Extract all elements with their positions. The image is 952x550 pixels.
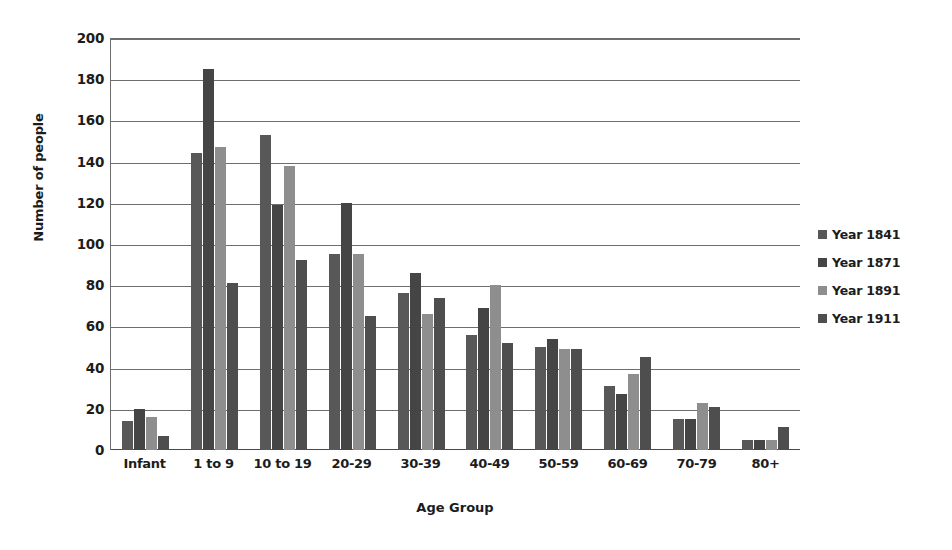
plot-area [110,38,800,450]
bar[interactable] [673,419,684,450]
y-axis-tick-labels: 020406080100120140160180200 [58,38,104,450]
x-tick-label: 30-39 [386,456,455,471]
y-tick-label: 40 [58,360,104,376]
x-axis-tick-labels: Infant1 to 910 to 1920-2930-3940-4950-59… [110,456,800,471]
x-tick-label: 40-49 [455,456,524,471]
y-tick-label: 200 [58,30,104,46]
bar[interactable] [709,407,720,450]
bar[interactable] [616,394,627,450]
legend-item[interactable]: Year 1841 [818,222,948,246]
legend-item[interactable]: Year 1891 [818,278,948,302]
bar[interactable] [778,427,789,450]
legend-label: Year 1841 [832,227,900,242]
bar-group [318,39,387,450]
bar[interactable] [604,386,615,450]
y-tick-label: 0 [58,442,104,458]
y-axis-title: Number of people [31,88,46,268]
bar-group [180,39,249,450]
bar[interactable] [502,343,513,450]
bar-group [111,39,180,450]
bar[interactable] [284,166,295,450]
bar[interactable] [398,293,409,450]
bar[interactable] [353,254,364,450]
x-axis-title: Age Group [110,500,800,515]
bar[interactable] [742,440,753,450]
x-tick-label: 1 to 9 [179,456,248,471]
x-tick-label: 60-69 [593,456,662,471]
bar[interactable] [466,335,477,450]
legend-label: Year 1891 [832,283,900,298]
bar[interactable] [215,147,226,450]
y-tick-label: 100 [58,236,104,252]
legend-label: Year 1871 [832,255,900,270]
bar[interactable] [296,260,307,450]
bar-group [662,39,731,450]
legend-swatch-icon [818,314,827,323]
bar-group [456,39,525,450]
bar[interactable] [422,314,433,450]
legend: Year 1841Year 1871Year 1891Year 1911 [818,222,948,334]
bar[interactable] [227,283,238,450]
bar[interactable] [490,285,501,450]
y-tick-label: 140 [58,154,104,170]
bar[interactable] [766,440,777,450]
bar-group [387,39,456,450]
bar[interactable] [697,403,708,450]
legend-label: Year 1911 [832,311,900,326]
x-tick-label: Infant [110,456,179,471]
bar-chart: Number of people 02040608010012014016018… [0,0,952,550]
x-tick-label: 70-79 [662,456,731,471]
bar[interactable] [640,357,651,450]
legend-swatch-icon [818,230,827,239]
bar[interactable] [434,298,445,450]
bar[interactable] [122,421,133,450]
x-tick-label: 20-29 [317,456,386,471]
bar-group [249,39,318,450]
bar[interactable] [754,440,765,450]
bar[interactable] [685,419,696,450]
legend-swatch-icon [818,286,827,295]
bar[interactable] [260,135,271,450]
bar-groups [111,39,800,450]
x-tick-label: 10 to 19 [248,456,317,471]
bar-group [593,39,662,450]
bar[interactable] [571,349,582,450]
x-tick-label: 80+ [731,456,800,471]
legend-item[interactable]: Year 1911 [818,306,948,330]
bar[interactable] [146,417,157,450]
bar[interactable] [559,349,570,450]
legend-swatch-icon [818,258,827,267]
bar[interactable] [203,69,214,450]
y-tick-label: 160 [58,112,104,128]
y-tick-label: 180 [58,71,104,87]
y-tick-label: 20 [58,401,104,417]
bar[interactable] [191,153,202,450]
bar[interactable] [410,273,421,450]
bar[interactable] [134,409,145,450]
bar[interactable] [628,374,639,450]
bar[interactable] [535,347,546,450]
bar-group [731,39,800,450]
bar[interactable] [478,308,489,450]
y-tick-label: 120 [58,195,104,211]
bar[interactable] [365,316,376,450]
legend-item[interactable]: Year 1871 [818,250,948,274]
bar[interactable] [341,203,352,450]
bar[interactable] [329,254,340,450]
y-tick-label: 60 [58,318,104,334]
x-tick-label: 50-59 [524,456,593,471]
bar[interactable] [272,205,283,450]
bar-group [524,39,593,450]
bar[interactable] [547,339,558,450]
y-tick-label: 80 [58,277,104,293]
bar[interactable] [158,436,169,450]
